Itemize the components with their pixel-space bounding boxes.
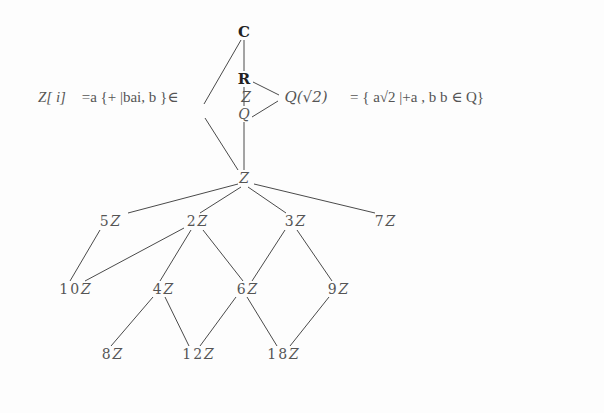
- edge-z-3z: [248, 187, 286, 213]
- edge-c-zi: [204, 40, 241, 104]
- edge-6z-12z: [200, 297, 236, 346]
- node-7z-coef: 7: [375, 213, 386, 229]
- node-complex-label: C: [238, 23, 250, 41]
- edge-9z-18z: [290, 297, 329, 346]
- node-7z: 7Z: [374, 214, 397, 228]
- q-sqrt2-formula: = { a√2 |+a , b b ∈ Q}: [350, 90, 484, 105]
- node-q-sqrt2-label: Q(√2): [284, 88, 327, 106]
- node-9z: 9Z: [327, 282, 350, 296]
- node-8z: 8Z: [101, 347, 124, 361]
- node-6z-sym: Z: [248, 281, 258, 297]
- edge-3z-9z: [297, 230, 332, 281]
- node-18z-sym: Z: [289, 346, 299, 362]
- edge-qsqrt2-q: [252, 101, 278, 117]
- node-q-sqrt2: Q(√2): [283, 90, 328, 105]
- node-4z-coef: 4: [153, 281, 164, 297]
- node-rationals-label: Q: [238, 106, 249, 122]
- node-7z-sym: Z: [386, 213, 396, 229]
- edge-r-qsqrt2: [253, 82, 279, 95]
- edge-4z-8z: [111, 297, 153, 346]
- node-10z: 10Z: [58, 282, 92, 296]
- node-5z-coef: 5: [100, 213, 111, 229]
- edge-z-7z: [254, 184, 375, 213]
- edge-2z-6z: [203, 230, 243, 281]
- node-6z-coef: 6: [237, 281, 248, 297]
- gaussian-integers-set: =a {+ |bai, b }∈: [82, 89, 179, 105]
- node-inner-z: Z: [240, 90, 252, 104]
- node-integers: Z: [238, 171, 250, 185]
- node-4z-sym: Z: [164, 281, 174, 297]
- node-integers-label: Z: [239, 170, 249, 186]
- edge-zi-z: [205, 118, 238, 170]
- edge-z-2z: [200, 187, 241, 213]
- gaussian-integers-formula: Z[ i] =a {+ |bai, b }∈: [38, 90, 178, 105]
- edge-5z-10z: [70, 230, 100, 281]
- node-18z-coef: 18: [267, 346, 289, 362]
- node-4z: 4Z: [152, 282, 175, 296]
- node-reals: R: [237, 72, 251, 87]
- node-10z-sym: Z: [81, 281, 91, 297]
- node-12z-coef: 12: [182, 346, 204, 362]
- node-9z-sym: Z: [339, 281, 349, 297]
- edge-6z-18z: [247, 297, 277, 346]
- gaussian-integers-label: Z[ i]: [38, 89, 66, 105]
- edge-4z-12z: [165, 297, 189, 346]
- edge-2z-4z: [160, 230, 191, 281]
- node-6z: 6Z: [236, 282, 259, 296]
- node-12z-sym: Z: [204, 346, 214, 362]
- edge-z-5z: [128, 184, 238, 213]
- node-inner-z-label: Z: [241, 89, 251, 105]
- node-12z: 12Z: [181, 347, 215, 361]
- lattice-edges: [0, 0, 604, 413]
- node-3z: 3Z: [284, 214, 307, 228]
- node-10z-coef: 10: [59, 281, 81, 297]
- node-8z-coef: 8: [102, 346, 113, 362]
- node-3z-coef: 3: [285, 213, 296, 229]
- q-sqrt2-set: = { a√2 |+a , b b ∈ Q}: [350, 89, 484, 105]
- node-3z-sym: Z: [296, 213, 306, 229]
- node-rationals: Q: [237, 107, 250, 121]
- node-reals-label: R: [238, 70, 250, 88]
- node-5z: 5Z: [99, 214, 122, 228]
- lattice-diagram: Z[ i] =a {+ |bai, b }∈ = { a√2 |+a , b b…: [0, 0, 604, 413]
- node-2z: 2Z: [186, 214, 209, 228]
- node-2z-sym: Z: [198, 213, 208, 229]
- node-9z-coef: 9: [328, 281, 339, 297]
- node-5z-sym: Z: [111, 213, 121, 229]
- edge-2z-10z: [85, 228, 184, 281]
- node-2z-coef: 2: [187, 213, 198, 229]
- node-complex: C: [237, 25, 251, 40]
- edge-3z-6z: [252, 230, 285, 281]
- node-8z-sym: Z: [113, 346, 123, 362]
- node-18z: 18Z: [266, 347, 300, 361]
